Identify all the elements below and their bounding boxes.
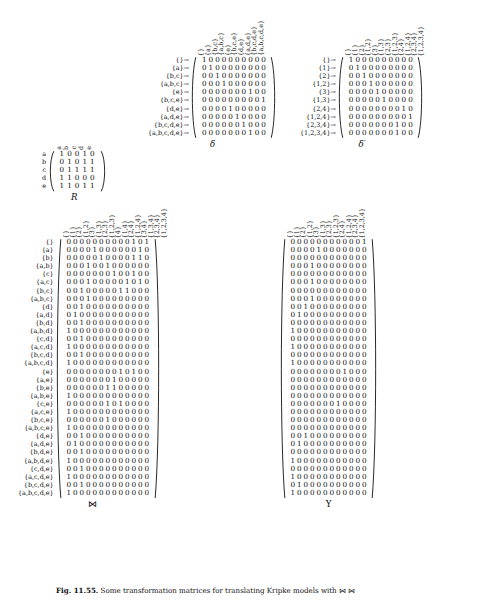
matrix-block-bowtie: {}{a}{b}{a,b}{c}{a,c}{b,c}{a,b,c}{d}{a,d… bbox=[18, 212, 166, 509]
row-label: {a,b,c,e} bbox=[24, 424, 55, 432]
matrix-cell: 0 bbox=[407, 129, 414, 137]
row-label: {a}→ bbox=[172, 64, 191, 72]
left-paren-upsilon bbox=[279, 238, 286, 497]
row-label: {e} bbox=[42, 368, 55, 376]
matrix-caption-R: R bbox=[71, 192, 77, 202]
row-label: {a,d,e}→ bbox=[160, 113, 191, 121]
row-label: {1,2,3,4}→ bbox=[300, 129, 337, 137]
matrix-cell: 0 bbox=[368, 129, 375, 137]
row-label: {a,b,c} bbox=[30, 295, 55, 303]
row-label: {1,2}→ bbox=[312, 80, 337, 88]
row-label: {b,e} bbox=[36, 384, 56, 392]
figure-page: abcde abcde 1001001011011111100011011 R … bbox=[0, 0, 493, 605]
row-label: {b,d} bbox=[35, 319, 55, 327]
matrix-wrap-delta-prime: {}→{1}→{2}→{1,2}→{3}→{1,3}→{2,4}→{1,2,4}… bbox=[300, 30, 424, 137]
col-labels-upsilon: {}{1}{2}{1,2}{3}{1,3}{2,3}{1,2,3}{2,4}{1… bbox=[286, 212, 364, 238]
matrix-cell: 0 bbox=[374, 129, 381, 137]
right-paren-upsilon bbox=[371, 238, 378, 497]
left-paren-bowtie bbox=[55, 238, 62, 497]
matrix-cell: 0 bbox=[254, 129, 261, 137]
row-label: {a,b,c,d,e} bbox=[18, 489, 55, 497]
matrix-block-delta: {}→{a}→{b,c}→{a,b,c}→{e}→{b,c,e}→{d,e}→{… bbox=[148, 30, 277, 149]
col-label: {2,3,4} bbox=[410, 32, 417, 56]
matrix-block-R: abcde abcde 1001001011011111100011011 R bbox=[42, 124, 107, 202]
right-paren-R bbox=[100, 150, 107, 190]
row-label: {b,c,d} bbox=[30, 351, 55, 359]
right-paren-delta bbox=[270, 56, 277, 137]
row-label: {a,b,d,e} bbox=[24, 457, 56, 465]
matrix-cells-bowtie: 0000000000101000010000001000000100001100… bbox=[62, 238, 154, 497]
row-label: {a,c,d,e} bbox=[24, 473, 55, 481]
matrix-row: 0000000100 bbox=[201, 129, 267, 137]
matrix-cell: 0 bbox=[221, 129, 228, 137]
row-label: {a,b,c,d} bbox=[24, 359, 55, 367]
col-labels-R: abcde bbox=[55, 124, 93, 150]
matrix-wrap-upsilon: {}{1}{2}{1,2}{3}{1,3}{2,3}{1,2,3}{2,4}{1… bbox=[279, 212, 378, 497]
matrix-wrap-delta: {}→{a}→{b,c}→{a,b,c}→{e}→{b,c,e}→{d,e}→{… bbox=[148, 30, 277, 137]
row-label: {a,d,e} bbox=[30, 440, 55, 448]
matrix-wrap-bowtie: {}{a}{b}{a,b}{c}{a,c}{b,c}{a,b,c}{d}{a,d… bbox=[18, 212, 166, 497]
col-label: {1,2,3,4} bbox=[417, 26, 424, 57]
right-paren-bowtie bbox=[154, 238, 161, 497]
matrix-block-delta-prime: {}→{1}→{2}→{1,2}→{3}→{1,3}→{2,4}→{1,2,4}… bbox=[300, 30, 424, 149]
matrix-cell: 0 bbox=[214, 129, 221, 137]
row-label: {a,c} bbox=[36, 278, 55, 286]
col-labels-delta-prime: {}{1}{2}{1,2}{3}{1,3}{2,3}{1,2,3}{2,4}{1… bbox=[344, 30, 423, 56]
matrix-block-upsilon: {}{1}{2}{1,2}{3}{1,3}{2,3}{1,2,3}{2,4}{1… bbox=[279, 212, 378, 509]
col-label: {d,e} bbox=[237, 38, 244, 56]
row-labels-delta-prime: {}→{1}→{2}→{1,2}→{3}→{1,3}→{2,4}→{1,2,4}… bbox=[300, 56, 337, 137]
row-label: {a,b,d} bbox=[29, 327, 55, 335]
row-label: {b,c,e} bbox=[30, 416, 55, 424]
figure-caption: Fig. 11.55. Some transformation matrices… bbox=[56, 586, 456, 595]
matrix-cell: 0 bbox=[73, 182, 81, 190]
matrix-cell: 1 bbox=[66, 182, 74, 190]
matrix-cell: 1 bbox=[394, 129, 401, 137]
matrix-cell: 0 bbox=[208, 129, 215, 137]
row-label: {a,d} bbox=[36, 311, 56, 319]
matrix-cell: 1 bbox=[88, 182, 96, 190]
row-label: {a,c,d} bbox=[30, 343, 55, 351]
row-label: {a,b} bbox=[36, 262, 56, 270]
matrix-cell: 0 bbox=[260, 129, 267, 137]
row-label: {d} bbox=[41, 303, 55, 311]
row-label: {b,c,e}→ bbox=[160, 96, 191, 104]
matrix-cell: 0 bbox=[201, 129, 208, 137]
row-label: {e}→ bbox=[172, 88, 191, 96]
matrix-cell: 1 bbox=[247, 129, 254, 137]
row-label: {c} bbox=[42, 270, 55, 278]
row-label: {2,3,4}→ bbox=[306, 121, 337, 129]
row-label: {2,4}→ bbox=[312, 105, 337, 113]
row-label: {1,2,4}→ bbox=[306, 113, 337, 121]
matrix-cells-upsilon: 0000000000010000100000000000000000000001… bbox=[286, 238, 371, 497]
row-label: {}→ bbox=[175, 56, 190, 64]
row-label: {3}→ bbox=[318, 88, 337, 96]
row-label: {c,e} bbox=[36, 400, 55, 408]
matrix-row: 11011 bbox=[58, 182, 96, 190]
row-label: {}→ bbox=[322, 56, 337, 64]
matrix-caption-bowtie: ⋈ bbox=[88, 499, 97, 509]
matrix-cell: 1 bbox=[58, 182, 66, 190]
col-label: {2,3} bbox=[325, 220, 332, 238]
matrix-cell: 0 bbox=[361, 129, 368, 137]
row-label: {d,e}→ bbox=[166, 105, 191, 113]
col-label: {3,4} bbox=[140, 220, 147, 238]
col-labels-delta: {}{a}{b,c}{a,b,c}{e}{b,c,e}{d,e}{a,d,e}{… bbox=[197, 30, 263, 56]
right-paren-delta-prime bbox=[417, 56, 424, 137]
matrix-cell: 1 bbox=[81, 182, 89, 190]
matrix-wrap-R: abcde abcde 1001001011011111100011011 bbox=[42, 124, 107, 190]
row-label: {a,b,e} bbox=[30, 392, 55, 400]
row-label: {a,b,c}→ bbox=[160, 80, 191, 88]
left-paren-delta-prime bbox=[337, 56, 344, 137]
col-label: {b,c,d,e} bbox=[250, 26, 257, 56]
col-label: {2,4} bbox=[338, 220, 345, 238]
matrix-caption-delta-prime: δ′ bbox=[359, 139, 366, 149]
left-paren-R bbox=[48, 150, 55, 190]
row-label: {1,3}→ bbox=[312, 96, 337, 104]
matrix-cells-delta: 1000000000010000000000100000000001000000… bbox=[197, 56, 270, 137]
row-label: {b} bbox=[41, 254, 55, 262]
row-label: {b,c,d,e}→ bbox=[154, 121, 191, 129]
row-label: {c,d} bbox=[36, 335, 55, 343]
row-label: {1}→ bbox=[318, 64, 337, 72]
matrix-cells-delta-prime: 1000000000010000000000100000000001000000… bbox=[344, 56, 417, 137]
figure-caption-label: Fig. 11.55. bbox=[56, 586, 98, 595]
